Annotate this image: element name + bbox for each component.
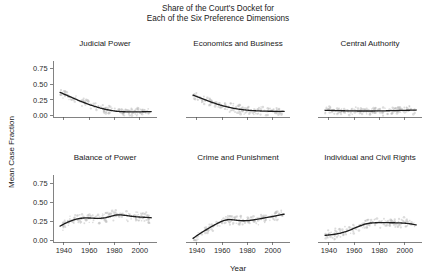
scatter-point — [92, 214, 94, 216]
panel-central-authority: Central Authority — [318, 39, 422, 120]
scatter-point — [368, 109, 370, 111]
scatter-point — [206, 96, 209, 99]
scatter-point — [144, 109, 146, 111]
scatter-point — [74, 214, 76, 216]
scatter-point — [197, 238, 199, 240]
scatter-point — [368, 219, 370, 221]
scatter-point — [62, 222, 64, 224]
panel-individual-and-civil-rights: Individual and Civil Rights1940196019802… — [318, 153, 422, 255]
scatter-point — [401, 108, 403, 110]
scatter-point — [379, 221, 380, 222]
scatter-point — [214, 105, 217, 108]
scatter-point — [345, 232, 346, 233]
scatter-point — [272, 218, 274, 220]
scatter-point — [203, 96, 205, 98]
scatter-point — [112, 220, 114, 222]
x-tick-label: 1960 — [214, 246, 230, 255]
scatter-point — [240, 215, 243, 218]
scatter-point — [125, 210, 128, 213]
scatter-point — [338, 108, 340, 110]
scatter-point — [97, 214, 100, 217]
scatter-point — [366, 113, 368, 115]
scatter-point — [65, 226, 67, 228]
scatter-point — [59, 94, 61, 96]
scatter-point — [397, 224, 400, 227]
scatter-point — [95, 109, 97, 111]
scatter-point — [225, 216, 227, 218]
scatter-point — [358, 229, 361, 232]
scatter-point — [385, 220, 386, 221]
scatter-point — [408, 221, 410, 223]
scatter-point — [375, 218, 377, 220]
scatter-point — [89, 222, 90, 223]
x-tick-label: 1960 — [81, 246, 97, 255]
scatter-point — [258, 217, 260, 219]
scatter-point — [138, 220, 140, 222]
scatter-point — [111, 107, 113, 109]
scatter-point — [140, 214, 142, 216]
scatter-point — [369, 225, 371, 227]
scatter-point — [243, 113, 244, 114]
scatter-point — [336, 236, 338, 238]
scatter-point — [244, 222, 246, 224]
scatter-point — [198, 236, 200, 238]
scatter-point — [137, 113, 139, 115]
scatter-point — [328, 111, 331, 114]
scatter-point — [396, 108, 398, 110]
scatter-point — [355, 106, 357, 108]
x-tick-label: 1980 — [371, 246, 387, 255]
scatter-point — [135, 113, 137, 115]
scatter-point — [382, 106, 385, 109]
scatter-point — [409, 220, 411, 222]
scatter-point — [350, 112, 352, 114]
chart-title-line-2: Each of the Six Preference Dimensions — [147, 14, 289, 23]
scatter-point — [75, 95, 77, 97]
scatter-point — [216, 101, 218, 103]
scatter-point — [350, 233, 351, 234]
scatter-point — [333, 113, 335, 115]
scatter-point — [248, 221, 250, 223]
scatter-point — [114, 107, 116, 109]
scatter-point — [329, 236, 332, 239]
scatter-point — [227, 215, 229, 217]
x-tick-label: 2000 — [265, 246, 281, 255]
y-tick-label: 0.25 — [33, 217, 47, 226]
scatter-point — [68, 99, 69, 100]
scatter-point — [85, 99, 87, 101]
scatter-point — [410, 221, 412, 223]
scatter-point — [142, 109, 144, 111]
scatter-point — [99, 216, 101, 218]
scatter-point — [103, 214, 104, 215]
scatter-point — [369, 113, 372, 116]
scatter-point — [413, 222, 414, 223]
x-tick-label: 2000 — [397, 246, 413, 255]
scatter-point — [341, 108, 343, 110]
panel-judicial-power: Judicial Power0.000.250.500.75 — [33, 39, 157, 120]
scatter-point — [81, 213, 83, 215]
scatter-point — [234, 218, 235, 219]
scatter-point — [62, 97, 64, 99]
scatter-point — [338, 235, 340, 237]
scatter-point — [245, 111, 247, 113]
panel-balance-of-power: Balance of Power19401960198020000.000.25… — [33, 153, 157, 255]
y-tick-label: 0.00 — [33, 236, 47, 245]
scatter-point — [204, 232, 207, 235]
scatter-point — [371, 108, 372, 109]
scatter-point — [406, 107, 408, 109]
scatter-point — [219, 225, 221, 227]
scatter-point — [208, 223, 210, 225]
panel-title-judicial-power: Judicial Power — [79, 39, 131, 48]
scatter-point — [327, 233, 329, 235]
scatter-point — [406, 220, 408, 222]
scatter-point — [79, 214, 81, 216]
scatter-point — [232, 224, 234, 226]
scatter-point — [329, 106, 331, 108]
scatter-point — [264, 222, 265, 223]
scatter-point — [262, 106, 265, 109]
scatter-point — [277, 219, 278, 220]
scatter-point — [97, 105, 98, 106]
scatter-point — [60, 89, 62, 91]
x-tick-label: 1980 — [106, 246, 122, 255]
scatter-point — [129, 114, 131, 116]
scatter-point — [68, 224, 70, 226]
